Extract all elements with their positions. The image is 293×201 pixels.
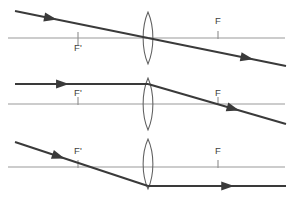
ray-diagram-figure: F'FF'FF'F [0, 0, 293, 201]
focal-left-label: F' [74, 42, 82, 53]
refracted-ray-arrowhead [240, 52, 254, 61]
ray-diagram-canvas: F'FF'FF'F [0, 0, 293, 201]
focal-left-label: F' [74, 145, 82, 156]
incident-ray-arrowhead [51, 150, 65, 159]
incident-ray [15, 11, 148, 38]
refracted-ray [148, 38, 286, 66]
focal-right-label: F [215, 145, 221, 156]
incident-ray-arrowhead [56, 79, 69, 88]
panel-1: F'F [8, 11, 286, 66]
focal-right-label: F [215, 87, 221, 98]
focal-right-label: F [215, 15, 221, 26]
incident-ray-arrowhead [43, 12, 57, 21]
focal-left-label: F' [74, 87, 82, 98]
panel-3: F'F [8, 139, 286, 191]
panel-2: F'F [8, 78, 286, 130]
refracted-ray-arrowhead [221, 181, 234, 190]
converging-lens [143, 139, 153, 189]
